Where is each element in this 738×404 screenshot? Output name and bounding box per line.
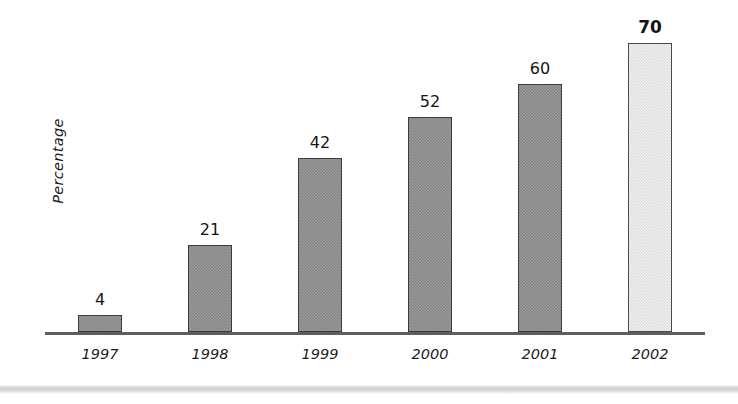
- x-tick-label-1998: 1998: [155, 346, 265, 362]
- bar-series-group: 42142526070: [45, 18, 705, 332]
- bar-slot-1997: [45, 18, 155, 332]
- x-tick-label-2000: 2000: [375, 346, 485, 362]
- bar-2000[interactable]: [408, 117, 452, 332]
- bar-value-label-1997: 4: [45, 290, 155, 309]
- bar-slot-2002: [595, 18, 705, 332]
- chart-page: Percentage 42142526070 19971998199920002…: [0, 0, 738, 404]
- x-axis-baseline: [45, 332, 705, 335]
- bar-2001[interactable]: [518, 84, 562, 332]
- bar-slot-1998: [155, 18, 265, 332]
- bar-1998[interactable]: [188, 245, 232, 332]
- bar-value-label-1999: 42: [265, 133, 375, 152]
- x-tick-label-1997: 1997: [45, 346, 155, 362]
- x-axis-tick-label-group: 199719981999200020012002: [45, 346, 705, 372]
- bar-value-label-2001: 60: [485, 59, 595, 78]
- x-tick-label-2002: 2002: [595, 346, 705, 362]
- bar-1997[interactable]: [78, 315, 122, 332]
- x-tick-label-1999: 1999: [265, 346, 375, 362]
- bar-value-label-2000: 52: [375, 92, 485, 111]
- bar-chart-plot-area: Percentage 42142526070 19971998199920002…: [0, 0, 738, 404]
- page-edge-artifact: [0, 385, 738, 394]
- bar-1999[interactable]: [298, 158, 342, 332]
- bar-slot-1999: [265, 18, 375, 332]
- x-tick-label-2001: 2001: [485, 346, 595, 362]
- bar-slot-2000: [375, 18, 485, 332]
- bar-2002[interactable]: [628, 43, 672, 332]
- bar-value-label-2002: 70: [595, 17, 705, 37]
- bar-value-label-1998: 21: [155, 220, 265, 239]
